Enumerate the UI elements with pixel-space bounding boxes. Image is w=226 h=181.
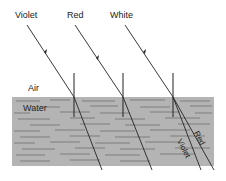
violet-ray-label: Violet xyxy=(15,11,37,20)
red-ray-label: Red xyxy=(67,11,84,20)
red-incident-ray xyxy=(75,25,123,97)
water-label: Water xyxy=(23,104,47,113)
white-incident-ray xyxy=(125,25,173,97)
air-label: Air xyxy=(28,84,39,93)
white-ray-label: White xyxy=(110,11,133,20)
